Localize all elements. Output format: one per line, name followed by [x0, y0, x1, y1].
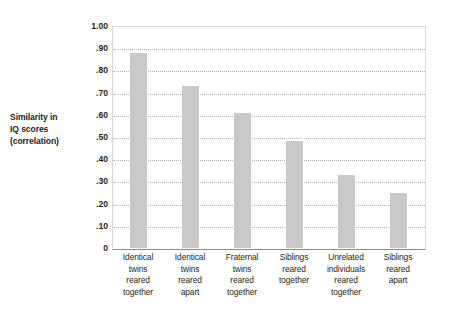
y-tick-label: .80	[78, 66, 108, 75]
y-axis-tick-labels: 1.00.90.80.70.60.50.40.30.20.100	[76, 26, 108, 248]
y-tick-label: .70	[78, 88, 108, 97]
x-category-label-line: reared	[372, 264, 424, 276]
x-category-label-line: individuals	[320, 264, 372, 276]
iq-similarity-bar-chart: Similarity in IQ scores (correlation) 1.…	[0, 0, 467, 317]
bar	[338, 175, 355, 248]
x-category-label-line: Fraternal	[216, 252, 268, 264]
x-category-label-line: Siblings	[372, 252, 424, 264]
x-category-label-line: twins	[164, 264, 216, 276]
x-category-label-line: reared	[268, 264, 320, 276]
y-tick-label: 0	[78, 244, 108, 253]
x-category-label: Siblingsrearedapart	[372, 252, 424, 287]
y-tick-label: .40	[78, 155, 108, 164]
x-category-label-line: reared	[164, 275, 216, 287]
x-category-label-line: Unrelated	[320, 252, 372, 264]
x-category-label-line: together	[112, 287, 164, 299]
bar	[390, 193, 407, 249]
bar	[286, 141, 303, 248]
x-category-label-line: apart	[164, 287, 216, 299]
x-category-label: Fraternaltwinsrearedtogether	[216, 252, 268, 298]
x-category-label-line: reared	[320, 275, 372, 287]
x-category-label: Identicaltwinsrearedtogether	[112, 252, 164, 298]
x-category-label-line: reared	[216, 275, 268, 287]
x-category-label: Siblingsrearedtogether	[268, 252, 320, 287]
y-tick-label: .60	[78, 111, 108, 120]
y-tick-label: .30	[78, 177, 108, 186]
x-category-label: Identicaltwinsrearedapart	[164, 252, 216, 298]
y-tick-label: .10	[78, 222, 108, 231]
bar	[182, 86, 199, 248]
bars-layer	[112, 26, 424, 248]
x-category-label-line: together	[268, 275, 320, 287]
y-tick-label: .20	[78, 199, 108, 208]
x-category-label-line: Identical	[112, 252, 164, 264]
bar	[130, 53, 147, 248]
x-category-label-line: twins	[112, 264, 164, 276]
x-category-label-line: together	[216, 287, 268, 299]
x-category-label-line: Identical	[164, 252, 216, 264]
x-category-label-line: reared	[112, 275, 164, 287]
x-category-label-line: twins	[216, 264, 268, 276]
y-tick-label: .50	[78, 133, 108, 142]
y-tick-label: 1.00	[78, 22, 108, 31]
bar	[234, 113, 251, 248]
x-category-label: Unrelatedindividualsrearedtogether	[320, 252, 372, 298]
y-tick-label: .90	[78, 44, 108, 53]
x-category-label-line: Siblings	[268, 252, 320, 264]
x-category-label-line: together	[320, 287, 372, 299]
x-axis-category-labels: IdenticaltwinsrearedtogetherIdenticaltwi…	[112, 252, 424, 316]
x-category-label-line: apart	[372, 275, 424, 287]
